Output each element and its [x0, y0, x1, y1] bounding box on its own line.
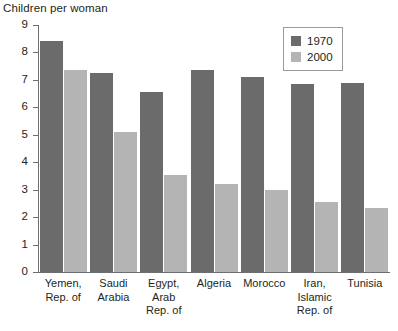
- y-axis-tick-label: 8: [0, 46, 28, 58]
- bar-1970: [291, 84, 314, 272]
- bar-1970: [40, 41, 63, 272]
- legend-label-1970: 1970: [307, 35, 333, 47]
- bar-1970: [90, 73, 113, 272]
- x-axis-line: [38, 272, 390, 273]
- x-axis-label-line: Rep. of: [38, 291, 88, 305]
- y-axis-tick-label: 5: [0, 129, 28, 141]
- x-axis-label-line: Islamic: [289, 291, 339, 305]
- y-axis-tick-label: 1: [0, 239, 28, 251]
- x-axis-label-line: Arab: [139, 291, 189, 305]
- x-axis-label: Iran,IslamicRep. of: [289, 277, 339, 318]
- chart-title: Children per woman: [3, 1, 108, 15]
- bar-1970: [191, 70, 214, 272]
- x-axis-label: Algeria: [189, 277, 239, 291]
- x-axis-label: Egypt,ArabRep. of: [139, 277, 189, 318]
- bar-1970: [241, 77, 264, 272]
- bar-2000: [114, 132, 137, 272]
- x-axis-label-line: Algeria: [189, 277, 239, 291]
- x-axis-label: SaudiArabia: [88, 277, 138, 304]
- bar-2000: [365, 208, 388, 272]
- y-axis-tick-label: 3: [0, 184, 28, 196]
- legend-swatch-icon-1970: [291, 36, 301, 46]
- bar-2000: [64, 70, 87, 272]
- y-axis-tick-label: 6: [0, 101, 28, 113]
- legend-swatch-icon-2000: [291, 52, 301, 62]
- bar-2000: [315, 202, 338, 272]
- x-axis-label-line: Rep. of: [139, 304, 189, 318]
- bar-2000: [265, 190, 288, 272]
- x-axis-label-line: Saudi: [88, 277, 138, 291]
- x-axis-label-line: Iran,: [289, 277, 339, 291]
- x-axis-label: Yemen,Rep. of: [38, 277, 88, 304]
- bar-chart: Children per woman 0123456789 Yemen,Rep.…: [0, 0, 398, 331]
- x-axis-category-labels: Yemen,Rep. ofSaudiArabiaEgypt,ArabRep. o…: [38, 277, 390, 329]
- bar-group: [140, 25, 187, 272]
- x-axis-label: Tunisia: [340, 277, 390, 291]
- bar-group: [241, 25, 288, 272]
- chart-legend: 1970 2000: [283, 27, 343, 71]
- bar-1970: [341, 83, 364, 272]
- bar-2000: [164, 175, 187, 272]
- bar-1970: [140, 92, 163, 272]
- legend-item-2000: 2000: [291, 49, 333, 65]
- x-axis-label-line: Arabia: [88, 291, 138, 305]
- bar-2000: [215, 184, 238, 272]
- bar-group: [191, 25, 238, 272]
- x-axis-label-line: Morocco: [239, 277, 289, 291]
- y-axis-tick-label: 7: [0, 74, 28, 86]
- y-axis-tick-label: 0: [0, 266, 28, 278]
- y-axis-tick: [33, 272, 38, 273]
- x-axis-label-line: Tunisia: [340, 277, 390, 291]
- x-axis-label-line: Egypt,: [139, 277, 189, 291]
- y-axis-tick-label: 9: [0, 19, 28, 31]
- y-axis-tick-label: 4: [0, 156, 28, 168]
- legend-label-2000: 2000: [307, 51, 333, 63]
- bar-group: [341, 25, 388, 272]
- y-axis-tick-label: 2: [0, 211, 28, 223]
- x-axis-label: Morocco: [239, 277, 289, 291]
- legend-item-1970: 1970: [291, 33, 333, 49]
- bar-group: [90, 25, 137, 272]
- x-axis-label-line: Yemen,: [38, 277, 88, 291]
- bar-group: [40, 25, 87, 272]
- x-axis-label-line: Rep. of: [289, 304, 339, 318]
